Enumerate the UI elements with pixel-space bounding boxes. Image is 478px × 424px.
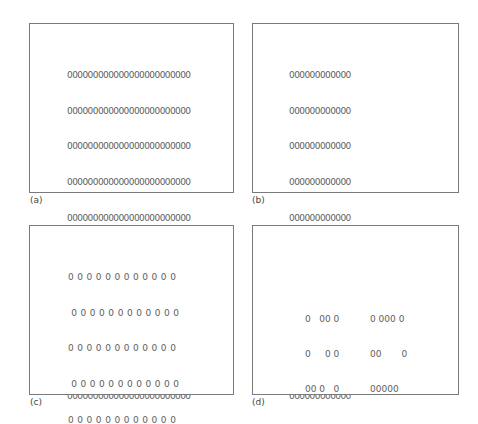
grid-row: 0 0 0 0 0 0 0 0 0 0 0 0 xyxy=(68,308,179,320)
grid-row: 000000000000 xyxy=(289,213,351,225)
group-row: 0 00 0 xyxy=(305,314,339,326)
grid-row: 0 0 0 0 0 0 0 0 0 0 0 0 xyxy=(68,415,179,424)
group-row: 0 0 0 xyxy=(305,349,339,361)
grid-row: 000000000000000000000000 xyxy=(67,70,191,82)
panel-b-frame xyxy=(252,23,459,193)
grid-row: 0 0 0 0 0 0 0 0 0 0 0 0 xyxy=(68,343,179,355)
group-row: 00 0 xyxy=(370,349,407,361)
grid-row: 000000000000 xyxy=(289,70,351,82)
group-row: 0 000 0 xyxy=(370,314,407,326)
grid-row: 0 0 0 0 0 0 0 0 0 0 0 0 xyxy=(68,379,179,391)
grid-row: 000000000000000000000000 xyxy=(67,213,191,225)
grid-row: 000000000000000000000000 xyxy=(67,177,191,189)
grid-row: 000000000000 xyxy=(289,141,351,153)
grid-row: 0 0 0 0 0 0 0 0 0 0 0 0 xyxy=(68,272,179,284)
panel-d-label: (d) xyxy=(252,397,265,407)
panel-d-left-group: 0 00 0 0 0 0 00 0 0 xyxy=(305,291,339,408)
panel-d-frame xyxy=(252,225,459,395)
panel-c-label: (c) xyxy=(30,397,42,407)
panel-b-label: (b) xyxy=(252,195,265,205)
group-row: 00 0 0 xyxy=(305,384,339,396)
grid-row: 000000000000 xyxy=(289,106,351,118)
grid-row: 000000000000000000000000 xyxy=(67,141,191,153)
panel-a-label: (a) xyxy=(30,195,43,205)
panel-d-right-group: 0 000 0 00 0 00000 xyxy=(370,291,407,408)
panel-c-grid: 0 0 0 0 0 0 0 0 0 0 0 0 0 0 0 0 0 0 0 0 … xyxy=(68,248,179,424)
grid-row: 000000000000 xyxy=(289,177,351,189)
grid-row: 000000000000000000000000 xyxy=(67,106,191,118)
group-row: 00000 xyxy=(370,384,407,396)
